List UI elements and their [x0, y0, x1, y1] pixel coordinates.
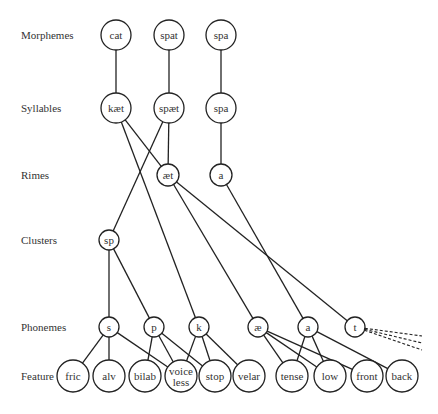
- node-label: spat: [160, 29, 178, 41]
- node-m-spat: spat: [154, 20, 184, 50]
- edge-p-p-to-f-bilab: [148, 337, 152, 360]
- node-label: stop: [206, 370, 225, 382]
- node-s-spa: spa: [206, 93, 236, 123]
- node-label: s: [107, 321, 111, 333]
- edge-p-a-to-f-low: [312, 336, 323, 361]
- edge-s-kaet-to-p-k: [121, 122, 195, 318]
- node-c-sp: sp: [99, 230, 119, 250]
- node-label: a: [306, 321, 311, 333]
- node-label: t: [353, 321, 356, 333]
- node-label: velar: [238, 370, 260, 382]
- node-label: æ: [254, 321, 261, 333]
- node-label: alv: [102, 370, 116, 382]
- node-p-s: s: [99, 317, 119, 337]
- row-label-feature: Feature: [21, 370, 54, 382]
- edge-p-ae-to-f-tense: [264, 335, 283, 363]
- node-label: low: [322, 370, 339, 382]
- node-label: spa: [214, 102, 229, 114]
- node-label: bilab: [134, 370, 156, 382]
- row-label-morphemes: Morphemes: [21, 29, 74, 41]
- node-label: fric: [65, 370, 80, 382]
- edge-p-s-to-f-fric: [82, 335, 103, 363]
- node-p-t: t: [345, 317, 365, 337]
- node-label: a: [219, 169, 224, 181]
- edge-p-a-to-f-tense: [297, 337, 305, 361]
- node-f-tense: tense: [276, 360, 308, 392]
- node-f-front: front: [351, 360, 383, 392]
- edge-s-spaet-to-c-sp: [113, 122, 163, 231]
- node-f-stop: stop: [199, 360, 231, 392]
- node-m-cat: cat: [101, 20, 131, 50]
- node-p-p: p: [144, 317, 164, 337]
- node-label: sp: [104, 234, 114, 246]
- row-labels: MorphemesSyllablesRimesClustersPhonemesF…: [21, 29, 74, 382]
- node-r-a: a: [210, 164, 232, 186]
- node-label: cat: [110, 29, 123, 41]
- node-label: æt: [163, 169, 173, 181]
- nodes-layer: catspatspakætspætspaætaspspkæatfricalvbi…: [57, 20, 418, 392]
- edge-s-spaet-to-r-aet: [168, 123, 169, 164]
- node-f-voiceless: voiceless: [165, 360, 197, 392]
- node-r-aet: æt: [157, 164, 179, 186]
- node-s-spaet: spæt: [154, 93, 184, 123]
- edge-r-aet-to-p-ae: [174, 184, 253, 318]
- phonological-hierarchy-diagram: MorphemesSyllablesRimesClustersPhonemesF…: [0, 0, 438, 414]
- node-f-fric: fric: [57, 360, 89, 392]
- row-label-syllables: Syllables: [21, 102, 61, 114]
- node-f-back: back: [386, 360, 418, 392]
- node-label: back: [392, 370, 413, 382]
- row-label-phonemes: Phonemes: [21, 321, 66, 333]
- node-label: spa: [214, 29, 229, 41]
- node-p-k: k: [189, 317, 209, 337]
- edge-r-aet-to-p-t: [177, 182, 348, 321]
- node-s-kaet: kæt: [101, 93, 131, 123]
- edge-p-p-to-f-voiceless: [159, 336, 173, 362]
- node-m-spa: spa: [206, 20, 236, 50]
- node-label: front: [356, 370, 377, 382]
- node-p-ae: æ: [248, 317, 268, 337]
- edge-p-k-to-f-stop: [202, 337, 210, 361]
- node-label: kæt: [108, 102, 124, 114]
- node-f-bilab: bilab: [129, 360, 161, 392]
- row-label-rimes: Rimes: [21, 169, 49, 181]
- node-f-alv: alv: [93, 360, 125, 392]
- node-f-velar: velar: [233, 360, 265, 392]
- node-label: tense: [281, 370, 304, 382]
- node-f-low: low: [314, 360, 346, 392]
- node-label: p: [151, 321, 157, 333]
- row-label-clusters: Clusters: [21, 234, 57, 246]
- edge-r-a-to-p-a: [226, 185, 303, 319]
- node-label: k: [196, 321, 202, 333]
- dashed-edge-p-t-2: [365, 329, 422, 343]
- diagram-canvas: MorphemesSyllablesRimesClustersPhonemesF…: [0, 0, 438, 414]
- dashed-edge-p-t-3: [364, 330, 422, 350]
- edge-s-kaet-to-r-aet: [125, 120, 161, 166]
- node-label: spæt: [159, 102, 179, 114]
- dashed-edge-p-t-1: [365, 328, 422, 336]
- node-p-a: a: [298, 317, 318, 337]
- edge-c-sp-to-p-p: [114, 249, 150, 318]
